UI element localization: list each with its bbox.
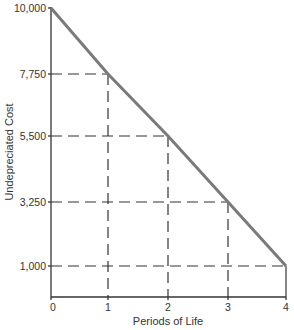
x-tick-labels: 0 1 2 3 4 <box>50 301 289 313</box>
y-tick-labels: 10,000 7,750 5,500 3,250 1,000 <box>14 2 46 272</box>
y-tick-label: 3,250 <box>20 196 46 208</box>
x-tick-label: 2 <box>165 301 171 313</box>
x-tick-label: 3 <box>225 301 231 313</box>
y-tick-label: 10,000 <box>14 2 46 14</box>
reference-lines <box>51 74 286 297</box>
axes <box>48 7 286 300</box>
y-tick-label: 5,500 <box>20 130 46 142</box>
y-tick-label: 1,000 <box>20 260 46 272</box>
x-axis-title: Periods of Life <box>133 315 203 327</box>
x-tick-label: 0 <box>50 301 56 313</box>
x-tick-label: 4 <box>283 301 289 313</box>
x-tick-label: 1 <box>105 301 111 313</box>
depreciation-chart: 10,000 7,750 5,500 3,250 1,000 0 1 2 3 4… <box>0 0 294 330</box>
y-axis-title: Undepreciated Cost <box>3 103 15 200</box>
y-tick-label: 7,750 <box>20 68 46 80</box>
